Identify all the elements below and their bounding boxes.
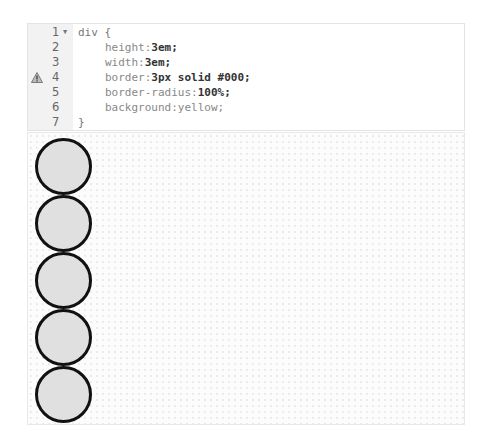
- line-number: 6: [52, 100, 64, 115]
- code-text: background:yellow;: [105, 100, 224, 115]
- code-line-4[interactable]: 4 border:3px solid #000;: [28, 70, 464, 85]
- circle-div-4: [35, 309, 92, 366]
- circle-div-3: [35, 252, 92, 309]
- circle-div-5: [35, 366, 92, 423]
- circle-div-1: [35, 138, 92, 195]
- code-line-6[interactable]: 6 background:yellow;: [28, 100, 464, 115]
- css-value: 3px solid #000;: [151, 71, 250, 84]
- code-editor[interactable]: 1 ▼ div { 2 height:3em; 3 width:3em; 4 b…: [27, 23, 465, 131]
- css-selector: div {: [78, 26, 111, 39]
- line-number: 2: [52, 40, 64, 55]
- line-number: 4: [52, 70, 64, 85]
- css-value: yellow;: [178, 101, 224, 114]
- circle-div-2: [35, 195, 92, 252]
- css-property: width:: [105, 56, 145, 69]
- closing-brace: }: [78, 116, 85, 129]
- code-text: div {: [78, 25, 111, 40]
- code-line-3[interactable]: 3 width:3em;: [28, 55, 464, 70]
- code-line-7[interactable]: 7 }: [28, 115, 464, 130]
- code-line-2[interactable]: 2 height:3em;: [28, 40, 464, 55]
- result-preview: [27, 132, 465, 425]
- css-property: border-radius:: [105, 86, 198, 99]
- code-text: }: [78, 115, 85, 130]
- css-value: 3em;: [145, 56, 172, 69]
- css-property: background:: [105, 101, 178, 114]
- css-value: 3em;: [151, 41, 178, 54]
- line-number: 3: [52, 55, 64, 70]
- line-number: 5: [52, 85, 64, 100]
- code-line-1[interactable]: 1 ▼ div {: [28, 25, 464, 40]
- code-text: border:3px solid #000;: [105, 70, 251, 85]
- css-property: height:: [105, 41, 151, 54]
- fold-arrow-icon[interactable]: ▼: [63, 25, 67, 40]
- css-property: border:: [105, 71, 151, 84]
- code-text: border-radius:100%;: [105, 85, 231, 100]
- css-value: 100%;: [198, 86, 231, 99]
- warning-triangle-icon[interactable]: [31, 72, 43, 83]
- code-line-5[interactable]: 5 border-radius:100%;: [28, 85, 464, 100]
- code-text: width:3em;: [105, 55, 171, 70]
- code-text: height:3em;: [105, 40, 178, 55]
- line-number: 7: [52, 115, 64, 130]
